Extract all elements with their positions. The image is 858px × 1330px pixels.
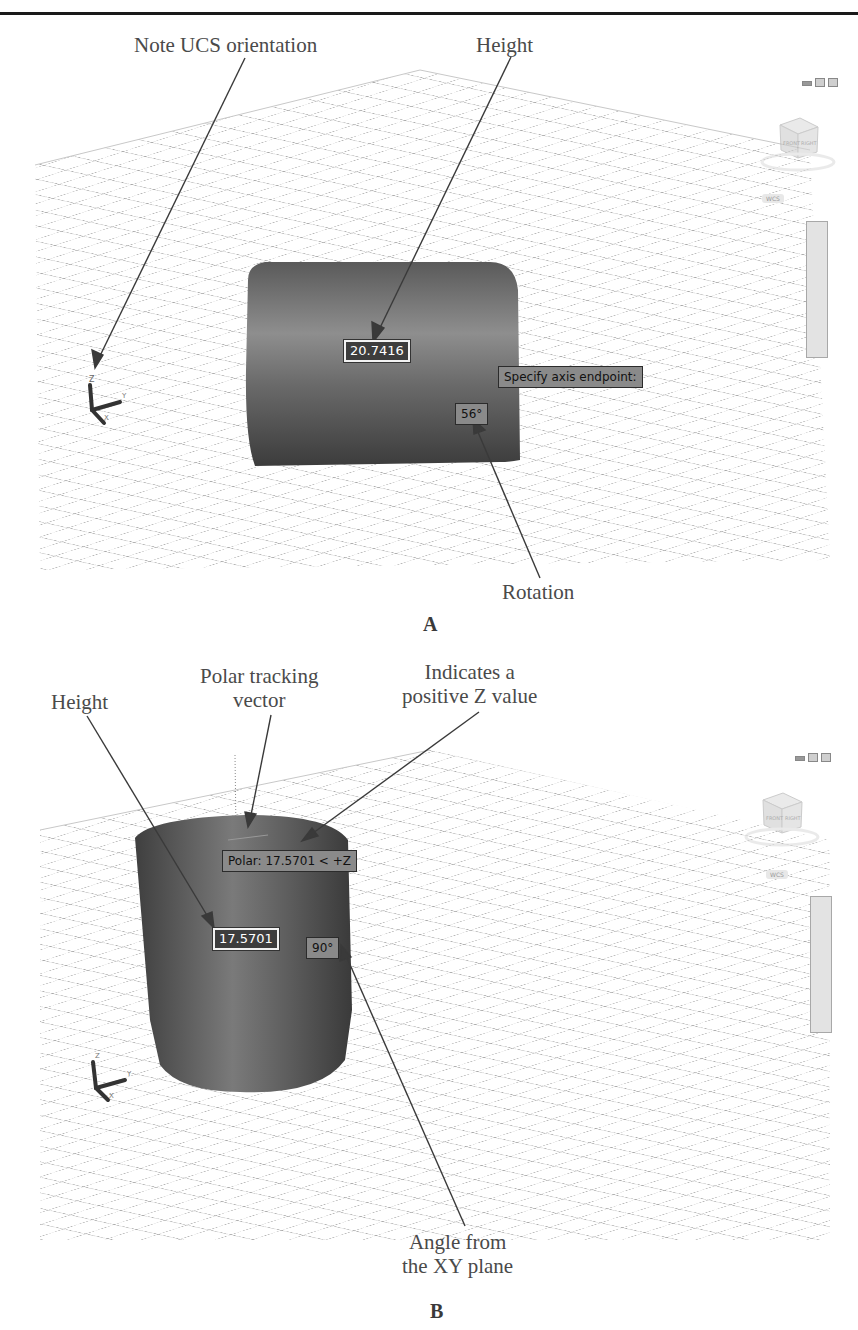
callout-angle-line1: Angle from	[402, 1230, 513, 1254]
close-icon[interactable]	[828, 78, 838, 87]
callout-angle-xy: Angle from the XY plane	[402, 1230, 513, 1278]
callout-polar-tracking: Polar tracking vector	[200, 664, 318, 712]
navigation-bar-b[interactable]	[810, 896, 832, 1033]
height-input-a[interactable]: 20.7416	[344, 340, 410, 362]
viewport-window-controls-b	[795, 753, 831, 762]
panel-label-b: B	[430, 1300, 443, 1323]
polar-tracking-tooltip: Polar: 17.5701 < +Z	[222, 850, 357, 872]
callout-positive-z-line2: positive Z value	[402, 684, 537, 708]
panel-label-a: A	[423, 613, 437, 636]
callout-height-b: Height	[51, 690, 108, 714]
viewcube-coord-label-b[interactable]: WCS	[766, 870, 788, 879]
callout-polar-line1: Polar tracking	[200, 664, 318, 688]
restore-icon[interactable]	[815, 78, 825, 87]
drawing-viewport-b[interactable]: Z Y X FRONT RIGHT	[0, 640, 858, 1330]
svg-text:Z: Z	[95, 1052, 100, 1060]
svg-text:RIGHT: RIGHT	[801, 140, 818, 146]
svg-text:Z: Z	[89, 375, 95, 384]
close-icon[interactable]	[821, 753, 831, 762]
rotation-angle-tooltip-a: 56°	[455, 403, 488, 425]
svg-text:X: X	[104, 414, 109, 422]
minimize-icon[interactable]	[802, 81, 812, 86]
restore-icon[interactable]	[808, 753, 818, 762]
command-prompt-tooltip-a: Specify axis endpoint:	[498, 366, 643, 388]
drawing-viewport-a[interactable]: Z Y X FRONT RIGHT WCS	[0, 0, 858, 640]
svg-text:RIGHT: RIGHT	[785, 815, 802, 821]
scene-b: Z Y X FRONT RIGHT	[0, 640, 858, 1330]
figure-panel-b: Z Y X FRONT RIGHT	[0, 640, 858, 1330]
callout-positive-z-line1: Indicates a	[402, 660, 537, 684]
figure-panel-a: Z Y X FRONT RIGHT WCS	[0, 0, 858, 640]
height-input-b[interactable]: 17.5701	[213, 928, 279, 950]
viewport-window-controls-a	[802, 78, 838, 87]
callout-rotation: Rotation	[502, 580, 574, 604]
callout-polar-line2: vector	[200, 688, 318, 712]
navigation-bar-a[interactable]	[806, 221, 828, 358]
svg-text:Y: Y	[121, 392, 127, 400]
svg-text:X: X	[109, 1092, 114, 1100]
callout-ucs-orientation: Note UCS orientation	[134, 33, 317, 57]
callout-positive-z: Indicates a positive Z value	[402, 660, 537, 708]
callout-angle-line2: the XY plane	[402, 1254, 513, 1278]
callout-height-a: Height	[476, 33, 533, 57]
svg-text:FRONT: FRONT	[766, 815, 784, 821]
svg-text:FRONT: FRONT	[783, 140, 801, 146]
viewcube-coord-label-a[interactable]: WCS	[762, 194, 784, 203]
angle-tooltip-b: 90°	[306, 937, 339, 959]
scene-a: Z Y X FRONT RIGHT	[0, 0, 858, 640]
svg-text:Y: Y	[126, 1070, 132, 1078]
minimize-icon[interactable]	[795, 756, 805, 761]
